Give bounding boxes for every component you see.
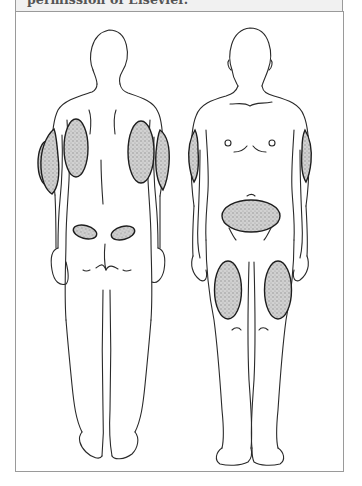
front-view-body	[191, 28, 309, 465]
site-back-right-flank	[128, 121, 154, 183]
site-front-left-thigh	[265, 261, 292, 319]
site-abdomen	[222, 200, 280, 232]
site-back-right-arm	[156, 130, 169, 190]
site-back-left-flank	[64, 119, 88, 177]
injection-sites-figure	[0, 0, 362, 486]
site-front-right-arm	[189, 130, 199, 182]
back-view-body	[51, 30, 165, 459]
site-back-left-buttock	[72, 223, 99, 242]
site-back-right-buttock	[110, 224, 137, 243]
back-view-sites	[38, 119, 169, 242]
site-front-right-thigh	[215, 261, 242, 319]
site-front-left-arm	[302, 130, 312, 182]
